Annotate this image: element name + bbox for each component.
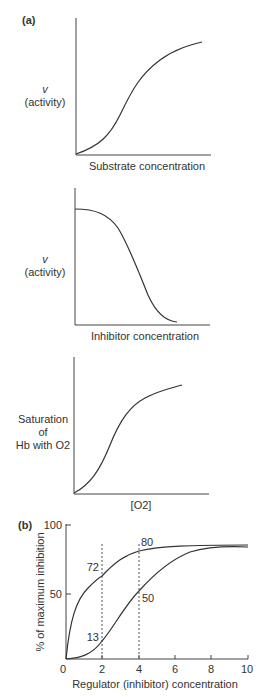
- annotation-72: 72: [87, 561, 99, 573]
- x-label: Substrate concentration: [89, 160, 205, 172]
- annotation-50: 50: [142, 592, 154, 604]
- x-label: Regulator (inhibitor) concentration: [72, 678, 238, 690]
- chart-hb-saturation: Saturation of Hb with O2 [O2]: [16, 357, 209, 511]
- y-label-v: v: [42, 83, 49, 95]
- y-label-v: v: [42, 253, 49, 265]
- y-label: % of maximum inhibition: [34, 532, 46, 651]
- activity-curve: [76, 42, 202, 154]
- x-tick-label-6: 6: [172, 663, 178, 675]
- x-tick-label-4: 4: [136, 663, 142, 675]
- x-label: [O2]: [131, 499, 152, 511]
- x-tick-label-0: 0: [60, 663, 66, 675]
- chart-substrate: v (activity) Substrate concentration: [25, 18, 211, 172]
- y-label-hb: Hb with O2: [16, 439, 70, 451]
- panel-b-label: (b): [18, 519, 32, 531]
- x-tick-label-2: 2: [99, 663, 105, 675]
- y-tick-label-50: 50: [50, 588, 62, 600]
- saturation-curve: [74, 385, 182, 493]
- figure-canvas: (a) v (activity) Substrate concentration…: [0, 0, 264, 697]
- y-label-activity: (activity): [25, 266, 66, 278]
- x-label: Inhibitor concentration: [91, 330, 199, 342]
- annotation-13: 13: [87, 631, 99, 643]
- y-label-of: of: [38, 426, 48, 438]
- annotation-80: 80: [141, 536, 153, 548]
- y-label-saturation: Saturation: [18, 413, 68, 425]
- x-tick-label-8: 8: [208, 663, 214, 675]
- y-label-activity: (activity): [25, 96, 66, 108]
- y-tick-label-100: 100: [44, 519, 62, 531]
- x-tick-label-10: 10: [241, 663, 253, 675]
- chart-inhibition: 100 50 0 2 4 6 8 10 72 80 13 50 Regulato…: [34, 519, 253, 690]
- chart-inhibitor: v (activity) Inhibitor concentration: [25, 188, 210, 342]
- x-ticks: [102, 655, 248, 659]
- panel-a-label: (a): [22, 14, 36, 26]
- activity-curve: [75, 209, 177, 322]
